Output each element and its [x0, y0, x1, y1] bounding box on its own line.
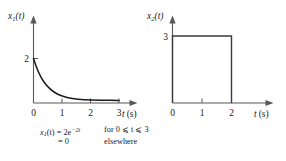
- x-tick-label-1: 1: [200, 108, 205, 118]
- x-axis-label-t-seconds: t(s): [254, 109, 269, 120]
- rectangular-pulse-shape: [173, 36, 232, 103]
- condition-line-2: elsewhere: [104, 136, 137, 147]
- x-axis-label-t-seconds: t(s): [122, 109, 137, 120]
- equation-caption: x1(t) = 2e−2t = 0 for 0 ⩽ t ⩽ 3 elsewher…: [0, 120, 286, 161]
- plot-x1-canvas: x1(t) 2 0 1 2 3 t(s): [0, 0, 150, 120]
- plot-x1: x1(t) 2 0 1 2 3 t(s): [0, 0, 150, 120]
- y-axis-arrow-icon: [30, 16, 36, 24]
- x-axis-arrow-icon: [130, 100, 138, 106]
- x-tick-label-2: 2: [229, 108, 234, 118]
- plot-x2-canvas: x2(t) 3 0 1 2 t(s): [143, 0, 286, 120]
- equation-line-2: = 0: [58, 136, 69, 147]
- x-tick-label-1: 1: [60, 108, 65, 118]
- y-axis-arrow-icon: [169, 16, 175, 24]
- condition-line-1: for 0 ⩽ t ⩽ 3: [104, 124, 149, 135]
- x-tick-label-3: 3: [117, 108, 122, 118]
- y-axis-label-x2: x2(t): [146, 11, 163, 22]
- y-axis-label-x1: x1(t): [7, 11, 24, 22]
- signal-figure: x1(t) 2 0 1 2 3 t(s): [0, 0, 286, 161]
- x-axis-arrow-icon: [266, 100, 274, 106]
- exponential-decay-curve: [34, 59, 120, 101]
- x-tick-label-2: 2: [88, 108, 93, 118]
- y-tick-label-3: 3: [163, 32, 168, 42]
- x-tick-label-0: 0: [170, 108, 175, 118]
- plot-x2: x2(t) 3 0 1 2 t(s): [143, 0, 286, 120]
- y-tick-label-2: 2: [24, 54, 29, 64]
- x-tick-label-0: 0: [31, 108, 36, 118]
